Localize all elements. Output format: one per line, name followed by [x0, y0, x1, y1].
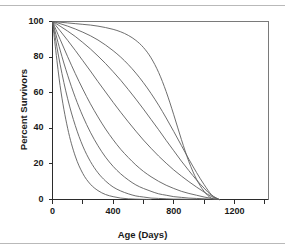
survival-curve: [53, 22, 220, 200]
x-tick-label: 0: [33, 206, 73, 216]
survival-curve: [53, 22, 220, 200]
y-tick-label: 0: [14, 194, 44, 204]
survival-curve: [53, 22, 220, 200]
y-tick-label: 100: [14, 16, 44, 26]
x-tick-label: 800: [154, 206, 194, 216]
x-tick-label: 1200: [214, 206, 254, 216]
curve-series: [53, 22, 220, 200]
survival-curves-figure: 020406080100 04008001200 Age (Days) Perc…: [0, 0, 285, 250]
y-axis-title: Percent Survivors: [18, 40, 29, 180]
survival-curve: [53, 22, 220, 200]
plot-frame: [53, 22, 269, 200]
survival-curve: [53, 22, 152, 200]
survival-curve: [53, 22, 220, 200]
x-axis-title: Age (Days): [0, 229, 285, 240]
survival-curve: [53, 22, 205, 200]
survival-curve: [53, 22, 220, 200]
x-tick-label: 400: [93, 206, 133, 216]
